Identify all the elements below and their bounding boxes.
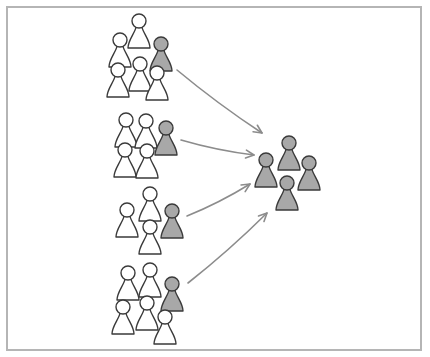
person-icon (115, 113, 137, 147)
person-body (139, 276, 161, 297)
person-body (276, 189, 298, 210)
merged-person-icon (276, 176, 298, 210)
person-body (298, 169, 320, 190)
target-merged-group (255, 136, 320, 210)
person-head (154, 37, 168, 51)
person-icon (112, 300, 134, 334)
person-head (302, 156, 316, 170)
person-body (117, 279, 139, 300)
person-icon (114, 143, 136, 177)
person-icon (139, 187, 161, 221)
person-head (282, 136, 296, 150)
person-head (259, 153, 273, 167)
person-head (140, 296, 154, 310)
person-icon (129, 57, 151, 91)
person-icon (109, 33, 131, 67)
person-body (114, 156, 136, 177)
source-group-3 (116, 187, 183, 254)
highlighted-person-icon (150, 37, 172, 71)
person-head (132, 14, 146, 28)
arrow-1 (177, 70, 262, 133)
person-head (121, 266, 135, 280)
person-icon (128, 14, 150, 48)
person-icon (117, 266, 139, 300)
arrow-2 (181, 140, 254, 158)
person-body (161, 290, 183, 311)
person-head (158, 310, 172, 324)
person-body (112, 313, 134, 334)
person-icon (107, 63, 129, 97)
person-head (280, 176, 294, 190)
source-group-4 (112, 263, 183, 344)
person-body (136, 157, 158, 178)
person-body (116, 216, 138, 237)
arrow-3 (187, 184, 250, 216)
arrow-line (181, 140, 254, 155)
person-head (140, 144, 154, 158)
highlighted-person-icon (155, 121, 177, 155)
arrow-4 (188, 213, 267, 283)
person-body (107, 76, 129, 97)
arrow-line (188, 213, 267, 283)
person-body (155, 134, 177, 155)
source-group-1 (107, 14, 172, 100)
person-head (150, 66, 164, 80)
person-body (146, 79, 168, 100)
person-head (165, 277, 179, 291)
person-body (139, 200, 161, 221)
person-head (139, 114, 153, 128)
merged-person-icon (278, 136, 300, 170)
person-head (143, 187, 157, 201)
person-body (255, 166, 277, 187)
person-icon (139, 220, 161, 254)
person-body (278, 149, 300, 170)
person-icon (139, 263, 161, 297)
person-head (143, 220, 157, 234)
person-head (143, 263, 157, 277)
arrow-line (177, 70, 262, 133)
merged-person-icon (255, 153, 277, 187)
person-head (113, 33, 127, 47)
person-head (118, 143, 132, 157)
merge-diagram (0, 0, 430, 357)
person-head (165, 204, 179, 218)
person-head (120, 203, 134, 217)
person-body (161, 217, 183, 238)
arrow-line (187, 184, 250, 216)
person-icon (136, 296, 158, 330)
person-icon (136, 144, 158, 178)
person-body (139, 233, 161, 254)
person-head (159, 121, 173, 135)
merged-person-icon (298, 156, 320, 190)
person-head (111, 63, 125, 77)
person-head (116, 300, 130, 314)
person-icon (135, 114, 157, 148)
person-head (133, 57, 147, 71)
person-body (129, 70, 151, 91)
person-body (136, 309, 158, 330)
highlighted-person-icon (161, 204, 183, 238)
diagram-canvas (0, 0, 430, 357)
person-body (128, 27, 150, 48)
person-head (119, 113, 133, 127)
highlighted-person-icon (161, 277, 183, 311)
source-group-2 (114, 113, 177, 178)
person-icon (116, 203, 138, 237)
